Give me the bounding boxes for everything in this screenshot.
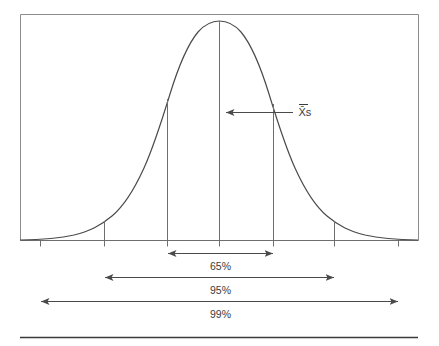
interval-65-group: 65% xyxy=(168,254,273,273)
distribution-figure: X̄s 65% 95% 99% xyxy=(0,0,439,346)
x-axis-ticks xyxy=(41,241,399,247)
drop-lines xyxy=(105,21,335,241)
normal-distribution-chart: X̄s 65% 95% 99% xyxy=(0,0,439,346)
mean-label-group: X̄s xyxy=(299,105,312,119)
mean-label-base: X̄s xyxy=(299,106,312,118)
interval-95-label: 95% xyxy=(210,284,231,296)
interval-99-label: 99% xyxy=(210,308,231,320)
interval-65-label: 65% xyxy=(210,260,231,272)
interval-95-group: 95% xyxy=(105,278,334,297)
interval-99-group: 99% xyxy=(41,302,398,321)
